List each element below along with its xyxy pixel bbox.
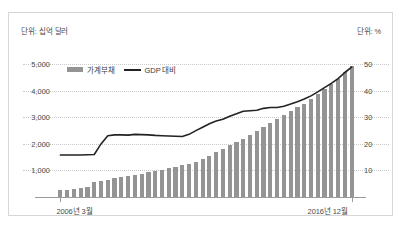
right-axis-unit-label: 단위: % [357,25,381,36]
x-axis-end-label: 2016년 12월 [308,205,348,216]
gdp-ratio-line [60,67,351,155]
y-axis-left-tick-label: 5,000 [31,60,50,69]
y-axis-right-tick-label: 10 [364,166,372,175]
y-axis-left-tick-label: 1,000 [31,166,50,175]
y-axis-left-tick-label: 3,000 [31,113,50,122]
x-axis-end-tick [352,197,353,202]
chart-card: 단위: 십억 달러 단위: % 가계부채 GDP 대비 1,0002,0003,… [8,12,393,216]
line-series [57,51,355,197]
y-axis-left-tick-label: 4,000 [31,86,50,95]
y-axis-right-tick-label: 40 [364,86,372,95]
x-axis-line [35,197,366,198]
y-axis-right-tick-label: 20 [364,139,372,148]
y-axis-left-tick-label: 2,000 [31,139,50,148]
plot-area: 1,0002,0003,0004,0005,000 1020304050 [57,51,355,197]
x-axis-start-tick [60,197,61,202]
left-axis-unit-label: 단위: 십억 달러 [21,25,68,36]
y-axis-right-tick-label: 50 [364,60,372,69]
y-axis-right-tick-label: 30 [364,113,372,122]
x-axis-start-label: 2006년 3월 [56,205,92,216]
